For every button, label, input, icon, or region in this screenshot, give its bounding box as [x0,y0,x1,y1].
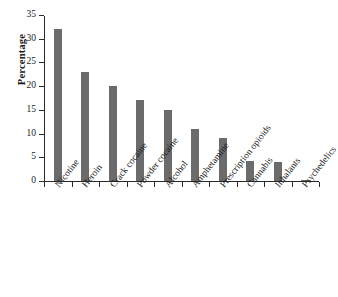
x-axis-labels: NicotineHeroinCrack cocainePowder cocain… [44,183,330,295]
bar [81,72,89,181]
y-tick: 15 [39,110,44,111]
bar [54,29,62,181]
y-tick-label: 20 [27,79,37,92]
y-tick-label: 25 [27,55,37,68]
y-tick-label: 10 [27,127,37,140]
y-axis-title: Percentage [16,15,27,105]
bar [109,86,117,181]
y-tick: 5 [39,157,44,158]
y-tick: 10 [39,134,44,135]
y-tick: 20 [39,86,44,87]
y-axis-line [44,16,45,182]
y-tick: 30 [39,39,44,40]
y-tick-label: 5 [31,150,36,163]
y-tick-label: 0 [31,174,36,187]
y-tick-label: 15 [27,103,37,116]
y-tick-label: 30 [27,32,37,45]
y-tick: 25 [39,62,44,63]
plot-area: 05101520253035 [44,16,319,182]
y-tick: 35 [39,15,44,16]
y-tick-label: 35 [27,8,37,21]
